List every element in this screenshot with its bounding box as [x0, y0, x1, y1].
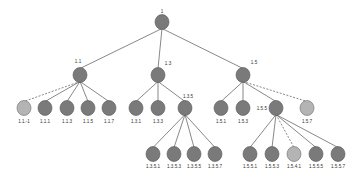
- tree-node-1.1.3: [60, 101, 74, 116]
- tree-node-1.5: [236, 68, 250, 83]
- edge-1.3-to-1.3.1: [136, 82, 158, 102]
- tree-node-1.5.5.5: [309, 147, 323, 162]
- tree-node-1.3.5: [178, 101, 192, 116]
- edge-1.5-to-1.5.5: [243, 82, 276, 102]
- tree-node-1.5.7: [300, 101, 314, 116]
- tree-node-1.3.3: [151, 101, 165, 116]
- tree-node-1.3.5.1: [146, 147, 160, 162]
- edge-1-to-1.1: [80, 29, 162, 69]
- tree-node-1.3.1: [129, 101, 143, 116]
- node-label: 1.3.5.5: [187, 164, 201, 169]
- edge-1-to-1.3: [158, 29, 162, 69]
- node-label: 1.5: [251, 60, 258, 65]
- node-label: 1.5.7: [302, 119, 313, 124]
- tree-node-1.5.5: [269, 101, 283, 116]
- tree-node-1.5.3: [236, 101, 250, 116]
- tree-node-1.1.-1: [17, 101, 31, 116]
- tree-node-1.1.5: [81, 101, 95, 116]
- edges-layer: [24, 29, 338, 148]
- node-label: 1.1.7: [104, 119, 115, 124]
- edge-1-to-1.5: [162, 29, 243, 69]
- node-label: 1.1.5: [83, 119, 94, 124]
- edge-1.3-to-1.3.5: [158, 82, 185, 102]
- node-label: 1.3.5.7: [208, 164, 222, 169]
- edge-1.5-to-1.5.1: [221, 82, 243, 102]
- tree-node-1.5.5.3: [265, 147, 279, 162]
- tree-node-1.3.5.7: [208, 147, 222, 162]
- node-label: 1.5.5.3: [265, 164, 279, 169]
- edge-1.1-to-1.1.3: [67, 82, 80, 102]
- node-label: 1.3.5: [183, 94, 194, 99]
- node-label: 1: [161, 9, 164, 14]
- edge-1.5-to-1.5.7: [243, 82, 307, 102]
- node-label: 1.5.3: [238, 119, 249, 124]
- tree-node-1.3.5.3: [167, 147, 181, 162]
- node-label: 1.1: [75, 59, 82, 64]
- tree-node-1.5.5.7: [331, 147, 345, 162]
- node-label: 1.5.5.1: [243, 164, 257, 169]
- edge-1.5.5-to-1.5.5.1: [250, 115, 276, 148]
- node-label: 1.1.-1: [18, 119, 30, 124]
- tree-node-1.1.7: [102, 101, 116, 116]
- tree-diagram: 11.11.31.51.1.-11.1.11.1.31.1.51.1.71.3.…: [0, 0, 362, 182]
- nodes-layer: [17, 15, 345, 162]
- tree-node-1.1: [73, 68, 87, 83]
- node-label: 1.1.3: [62, 119, 73, 124]
- tree-node-1.3.5.5: [187, 147, 201, 162]
- edge-1.1-to-1.1.1: [45, 82, 80, 102]
- node-label: 1.5.1: [216, 119, 227, 124]
- node-label: 1.3.5.3: [167, 164, 181, 169]
- edge-1.1-to-1.1.-1: [24, 82, 80, 102]
- tree-node-1.3: [151, 68, 165, 83]
- tree-node-1: [155, 15, 169, 30]
- node-label: 1.3.5.1: [146, 164, 160, 169]
- node-label: 1.5.5: [257, 106, 268, 111]
- node-label: 1.3.1: [131, 119, 142, 124]
- tree-node-1.1.1: [38, 101, 52, 116]
- node-label: 1.5.5.5: [309, 164, 323, 169]
- tree-node-1.5.4.1: [287, 147, 301, 162]
- edge-1.3.5-to-1.3.5.3: [174, 115, 185, 148]
- tree-node-1.5.1: [214, 101, 228, 116]
- node-label: 1.1.1: [40, 119, 51, 124]
- node-label: 1.3.3: [153, 119, 164, 124]
- tree-node-1.5.5.1: [243, 147, 257, 162]
- node-label: 1.3: [165, 61, 172, 66]
- node-label: 1.5.4.1: [287, 164, 301, 169]
- node-label: 1.5.5.7: [331, 164, 345, 169]
